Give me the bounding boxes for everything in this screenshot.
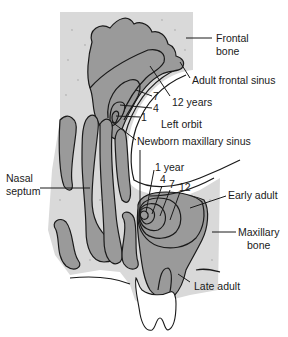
label-frontal-1: 1 [141,111,147,123]
label-maxillary-bone-2: bone [247,239,271,251]
label-late-adult: Late adult [194,280,240,292]
label-early-adult: Early adult [228,189,278,201]
label-maxillary-7: 7 [169,178,175,190]
label-frontal-bone-2: bone [216,45,240,57]
label-maxillary-12: 12 [179,181,191,193]
nasal-floor-outline [70,277,130,284]
label-frontal-bone-1: Frontal [216,32,249,44]
label-adult-frontal-sinus: Adult frontal sinus [192,74,275,86]
label-1-year: 1 year [155,161,185,173]
sinus-development-diagram: Frontal bone Adult frontal sinus 12 year… [0,0,288,337]
label-frontal-7: 7 [153,90,159,102]
label-left-orbit: Left orbit [161,118,202,130]
label-maxillary-4: 4 [160,173,166,185]
label-12-years: 12 years [172,96,212,108]
label-maxillary-bone-1: Maxillary [238,226,280,238]
label-newborn-maxillary-sinus: Newborn maxillary sinus [137,135,251,147]
label-nasal-septum-1: Nasal [6,172,33,184]
label-nasal-septum-2: septum [6,185,41,197]
label-frontal-4: 4 [153,102,159,114]
